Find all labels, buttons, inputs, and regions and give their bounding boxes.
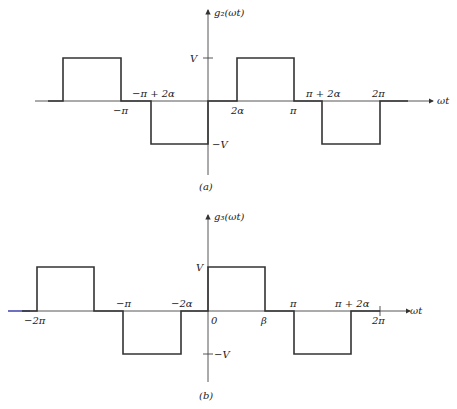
x-label-neg-2pi: −2π bbox=[24, 315, 46, 326]
x-label-a: ωt bbox=[437, 95, 450, 106]
x-label-zero: 0 bbox=[211, 315, 218, 326]
waveform-diagram: g₂(ωt) ωt V −V −π −π + 2α 2α π π + 2α 2π… bbox=[0, 0, 457, 409]
figure-b: g₃(ωt) ωt V −V −2π −π −2α 0 β π π + 2α 2… bbox=[8, 211, 423, 401]
caption-b: (b) bbox=[199, 390, 213, 401]
caption-a: (a) bbox=[199, 181, 213, 192]
v-label-a: V bbox=[190, 53, 199, 64]
x-label-neg-pi-b: −π bbox=[116, 298, 131, 309]
x-label-pi-b: π bbox=[289, 298, 297, 309]
x-label-pi-plus-2alpha-b: π + 2α bbox=[334, 298, 370, 309]
y-label-a: g₂(ωt) bbox=[214, 7, 244, 18]
x-label-pi-plus-2alpha: π + 2α bbox=[305, 88, 341, 99]
figure-a: g₂(ωt) ωt V −V −π −π + 2α 2α π π + 2α 2π… bbox=[35, 7, 450, 192]
x-label-2pi-b: 2π bbox=[371, 315, 385, 326]
x-label-beta: β bbox=[260, 315, 267, 326]
neg-v-label-b: −V bbox=[214, 349, 231, 360]
x-label-neg-pi: −π bbox=[113, 105, 128, 116]
x-label-neg-pi-plus-2alpha: −π + 2α bbox=[132, 88, 175, 99]
y-label-b: g₃(ωt) bbox=[214, 211, 244, 222]
v-label-b: V bbox=[196, 262, 205, 273]
x-label-pi: π bbox=[289, 105, 297, 116]
neg-v-label-a: −V bbox=[212, 139, 229, 150]
x-label-b: ωt bbox=[410, 305, 423, 316]
waveform-g3 bbox=[22, 267, 380, 354]
x-label-2pi: 2π bbox=[371, 88, 385, 99]
x-label-2alpha: 2α bbox=[230, 105, 244, 116]
x-label-neg-2alpha: −2α bbox=[171, 298, 193, 309]
